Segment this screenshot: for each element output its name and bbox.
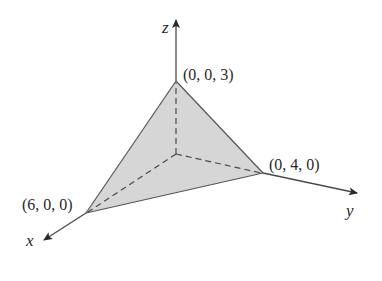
z-axis-label: z (161, 18, 169, 37)
y-axis-label: y (344, 201, 354, 220)
tetrahedron-diagram: z y x (0, 0, 3) (0, 4, 0) (6, 0, 0) (0, 0, 382, 281)
point-label-z: (0, 0, 3) (183, 66, 234, 84)
point-label-x: (6, 0, 0) (22, 196, 73, 214)
point-label-y: (0, 4, 0) (269, 156, 320, 174)
x-axis (44, 213, 86, 240)
y-axis (263, 173, 357, 193)
x-axis-label: x (25, 231, 34, 250)
